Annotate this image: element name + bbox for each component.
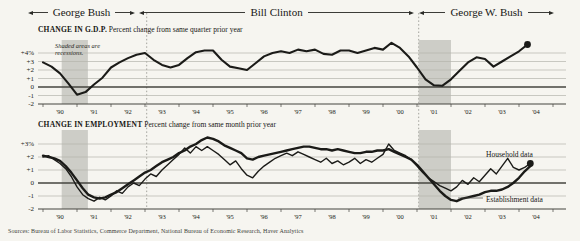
gdp-subtitle-text: Percent change from same quarter prior y… — [109, 25, 243, 34]
arrow-right-icon — [549, 11, 554, 15]
recession-note: Shaded areas are recessions. — [55, 42, 109, 57]
y-axis-label: -2 — [28, 100, 34, 108]
x-axis-label: '99 — [362, 108, 370, 115]
span-line — [424, 12, 445, 13]
x-axis-label: '01 — [430, 213, 438, 220]
span-line — [308, 12, 409, 13]
x-axis-label: '97 — [294, 213, 302, 220]
x-axis-label: '92 — [124, 213, 132, 220]
x-axis-label: '04 — [532, 213, 540, 220]
x-axis-label: '90 — [56, 213, 64, 220]
x-axis-label: '96 — [260, 213, 268, 220]
x-axis-label: '91 — [90, 108, 98, 115]
presidency-span-bill-clinton: Bill Clinton — [139, 5, 414, 20]
x-axis-label: '01 — [430, 108, 438, 115]
x-axis-label: '99 — [362, 213, 370, 220]
y-axis-label: 0 — [31, 83, 35, 91]
president-label: George W. Bush — [445, 7, 527, 18]
presidency-timeline: George Bush Bill Clinton George W. Bush — [0, 5, 580, 20]
y-axis-label: +2 — [27, 66, 35, 74]
x-axis-label: '02 — [464, 213, 472, 220]
span-line — [528, 12, 549, 13]
series-annotation: Establishment data — [486, 195, 544, 204]
president-label: Bill Clinton — [245, 7, 307, 18]
x-axis-label: '94 — [192, 108, 200, 115]
y-axis-label: +3% — [21, 140, 34, 148]
arrow-right-icon — [130, 11, 135, 15]
x-axis-label: '03 — [498, 213, 506, 220]
y-axis-label: +1 — [27, 166, 35, 174]
employment-title-text: CHANGE IN EMPLOYMENT — [38, 120, 142, 129]
span-line — [144, 12, 245, 13]
x-axis-label: '95 — [226, 213, 234, 220]
source-credit: Sources: Bureau of Labor Statistics, Com… — [8, 228, 303, 234]
household-data-end-dot — [527, 160, 534, 167]
employment-chart-title: CHANGE IN EMPLOYMENT Percent change from… — [38, 121, 276, 129]
x-axis-label: '03 — [498, 108, 506, 115]
x-axis-label: '98 — [328, 213, 336, 220]
president-label: George Bush — [48, 7, 116, 18]
x-axis-label: '91 — [90, 213, 98, 220]
y-axis-label: -1 — [28, 192, 34, 200]
x-axis-label: '00 — [396, 213, 404, 220]
employment-chart: +3%+2+10-1-2'90'91'92'93'94'95'96'97'98'… — [21, 130, 566, 220]
y-axis-label: +2 — [27, 153, 35, 161]
x-axis-label: '04 — [532, 108, 540, 115]
x-axis-label: '02 — [464, 108, 472, 115]
x-axis-label: '93 — [158, 108, 166, 115]
y-axis-label: -2 — [28, 205, 34, 213]
x-axis-label: '93 — [158, 213, 166, 220]
y-axis-label: +4% — [21, 49, 34, 57]
gdp-chart-title: CHANGE IN G.D.P. Percent change from sam… — [38, 26, 243, 34]
y-axis-label: 0 — [31, 179, 35, 187]
x-axis-label: '00 — [396, 108, 404, 115]
gdp-end-dot — [524, 41, 531, 48]
span-line — [33, 12, 48, 13]
economy-chart-figure: +4%+3+2+10-1-2'90'91'92'93'94'95'96'97'9… — [0, 0, 580, 241]
y-axis-label: -1 — [28, 92, 34, 100]
x-axis-label: '96 — [260, 108, 268, 115]
employment-subtitle-text: Percent change from same month prior yea… — [144, 120, 276, 129]
span-line — [115, 12, 130, 13]
recession-band — [419, 40, 451, 104]
gdp-title-text: CHANGE IN G.D.P. — [38, 25, 107, 34]
y-axis-label: +1 — [27, 75, 35, 83]
presidency-span-george-bush: George Bush — [28, 5, 135, 20]
y-axis-label: +3 — [27, 58, 35, 66]
x-axis-label: '94 — [192, 213, 200, 220]
x-axis-label: '90 — [56, 108, 64, 115]
x-axis-label: '95 — [226, 108, 234, 115]
x-axis-label: '92 — [124, 108, 132, 115]
series-annotation: Household data — [486, 150, 534, 159]
x-axis-label: '97 — [294, 108, 302, 115]
x-axis-label: '98 — [328, 108, 336, 115]
arrow-right-icon — [409, 11, 414, 15]
presidency-span-george-w-bush: George W. Bush — [419, 5, 554, 20]
